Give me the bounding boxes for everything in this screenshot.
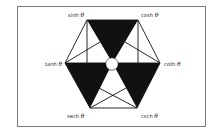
hyperbolic-hexagon-figure: sinh θ cosh θ tanh θ coth θ sech θ csch …: [0, 0, 221, 140]
label-tanh: tanh θ: [45, 60, 62, 67]
hexagon-diagram: sinh θ cosh θ tanh θ coth θ sech θ csch …: [0, 0, 221, 140]
center-circle: [106, 58, 118, 70]
label-coth: coth θ: [164, 60, 181, 67]
label-cosh: cosh θ: [141, 11, 159, 18]
label-sinh: sinh θ: [68, 11, 84, 18]
top-triangle: [87, 20, 138, 63]
lower-right-triangle: [113, 63, 161, 108]
label-sech: sech θ: [67, 112, 85, 119]
label-csch: csch θ: [141, 112, 158, 119]
lower-left-triangle: [65, 63, 113, 108]
